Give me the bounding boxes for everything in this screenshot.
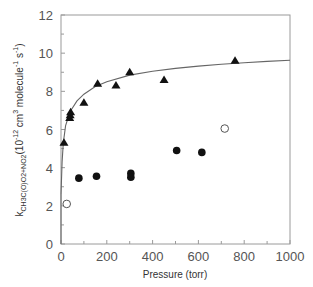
y-tick-label: 4	[46, 161, 53, 176]
x-tick-label: 600	[188, 249, 210, 264]
x-tick-label: 0	[57, 249, 64, 264]
triangle-marker	[66, 108, 75, 116]
triangle-marker	[93, 79, 102, 87]
open-circle-marker	[63, 200, 71, 208]
plot-frame	[61, 15, 290, 244]
filled-circle-marker	[198, 149, 206, 157]
x-axis-title: Pressure (torr)	[143, 269, 207, 280]
triangle-marker	[160, 75, 169, 83]
chart: 02004006008001000024681012 Pressure (tor…	[0, 0, 313, 287]
y-tick-label: 12	[39, 8, 53, 23]
svg-text:kCH3C(O)O2+NO2(10-12 cm3 molec: kCH3C(O)O2+NO2(10-12 cm3 molecule-1 s-1)	[12, 44, 28, 217]
open-circle-marker	[221, 125, 229, 133]
x-tick-label: 800	[233, 249, 255, 264]
filled-circle-marker	[173, 147, 181, 155]
filled-circle-marker	[93, 172, 101, 180]
y-tick-label: 10	[39, 46, 53, 61]
y-tick-label: 8	[46, 84, 53, 99]
filled-circle-marker	[75, 174, 83, 182]
data-points	[59, 56, 239, 207]
x-tick-label: 400	[142, 249, 164, 264]
plot-border	[61, 15, 290, 244]
y-tick-label: 2	[46, 199, 53, 214]
triangle-marker	[231, 56, 240, 64]
x-tick-label: 1000	[276, 249, 305, 264]
x-tick-label: 200	[96, 249, 118, 264]
triangle-marker	[125, 68, 134, 76]
y-tick-label: 6	[46, 123, 53, 138]
triangle-marker	[111, 81, 120, 89]
triangle-marker	[79, 98, 88, 106]
axis-ticks: 02004006008001000024681012	[39, 8, 305, 264]
y-tick-label: 0	[46, 237, 53, 252]
y-axis-title: kCH3C(O)O2+NO2(10-12 cm3 molecule-1 s-1)	[12, 44, 28, 217]
filled-circle-marker	[127, 173, 135, 181]
